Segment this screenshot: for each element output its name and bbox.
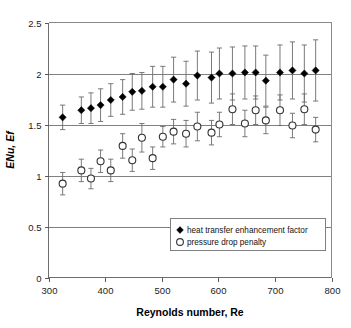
data-point-diamond — [216, 70, 223, 77]
data-point-circle — [87, 175, 94, 182]
x-tick-label-800: 800 — [325, 285, 341, 296]
data-point-diamond — [138, 87, 145, 94]
data-point-diamond — [229, 70, 236, 77]
data-point-circle — [119, 142, 126, 149]
data-point-diamond — [208, 74, 215, 81]
data-point-circle — [194, 123, 201, 130]
data-point-circle — [208, 129, 215, 136]
data-point-diamond — [78, 107, 85, 114]
x-tick-label-300: 300 — [42, 285, 58, 296]
y-tick-label-0.5: 0.5 — [28, 222, 41, 233]
data-point-circle — [107, 167, 114, 174]
data-point-circle — [216, 121, 223, 128]
data-point-circle — [262, 117, 269, 124]
data-point-circle — [59, 180, 66, 187]
data-point-diamond — [149, 83, 156, 90]
y-tick-labels: 00.511.522.5 — [28, 18, 41, 284]
x-axis-title: Reynolds number, Re — [136, 306, 244, 318]
y-tick-label-0: 0 — [36, 273, 41, 284]
data-point-circle — [289, 122, 296, 129]
reynolds-enhancement-scatter-chart: 00.511.522.5 300400500600700800 Reynolds… — [0, 0, 351, 328]
x-tick-label-400: 400 — [98, 285, 114, 296]
y-tick-label-1: 1 — [36, 171, 41, 182]
data-point-diamond — [312, 67, 319, 74]
data-point-diamond — [301, 70, 308, 77]
data-point-circle — [276, 107, 283, 114]
data-point-diamond — [119, 93, 126, 100]
data-point-circle — [97, 158, 104, 165]
legend-label-pressure-drop: pressure drop penalty — [187, 238, 267, 247]
x-tick-label-500: 500 — [155, 285, 171, 296]
y-axis-title: ENu, Ef — [4, 130, 16, 169]
x-axis-ticks — [50, 278, 333, 282]
data-point-circle — [170, 128, 177, 135]
data-point-circle — [129, 157, 136, 164]
chart-figure: 00.511.522.5 300400500600700800 Reynolds… — [0, 0, 351, 328]
data-point-circle — [252, 107, 259, 114]
legend-label-heat-transfer: heat transfer enhancement factor — [187, 226, 308, 235]
y-tick-label-2.5: 2.5 — [28, 18, 41, 29]
data-point-circle — [183, 130, 190, 137]
data-point-diamond — [262, 77, 269, 84]
series-pressure-drop — [59, 94, 319, 195]
x-tick-label-700: 700 — [268, 285, 284, 296]
data-point-circle — [301, 106, 308, 113]
data-point-circle — [241, 120, 248, 127]
data-point-diamond — [182, 80, 189, 87]
data-series-layer — [59, 40, 319, 195]
data-point-circle — [78, 167, 85, 174]
legend-open-circle-icon — [177, 239, 184, 246]
data-point-diamond — [87, 105, 94, 112]
x-tick-labels: 300400500600700800 — [42, 285, 341, 296]
data-point-diamond — [97, 102, 104, 109]
data-point-diamond — [59, 114, 66, 121]
y-axis-ticks — [45, 24, 49, 279]
data-point-circle — [312, 126, 319, 133]
data-point-circle — [138, 134, 145, 141]
data-point-diamond — [159, 83, 166, 90]
data-point-diamond — [107, 96, 114, 103]
data-point-diamond — [289, 67, 296, 74]
chart-legend: heat transfer enhancement factor pressur… — [171, 219, 326, 251]
data-point-circle — [159, 133, 166, 140]
data-point-diamond — [129, 88, 136, 95]
y-tick-label-1.5: 1.5 — [28, 120, 41, 131]
y-tick-label-2: 2 — [36, 69, 41, 80]
data-point-circle — [149, 155, 156, 162]
x-tick-label-600: 600 — [211, 285, 227, 296]
data-point-diamond — [170, 76, 177, 83]
data-point-circle — [229, 106, 236, 113]
data-point-diamond — [194, 72, 201, 79]
